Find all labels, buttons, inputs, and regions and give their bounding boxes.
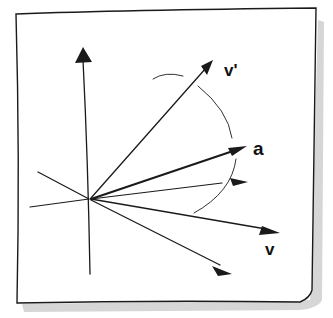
label-v: v (265, 240, 275, 259)
label-v-prime: v' (224, 61, 238, 80)
diagram-canvas: v' a v (0, 0, 333, 318)
label-a: a (253, 138, 264, 159)
